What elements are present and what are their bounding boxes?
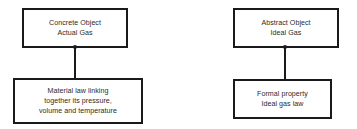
node-abstract-object-line-2: Ideal Gas — [271, 28, 302, 38]
node-formal-property-line-1: Formal property — [257, 89, 308, 99]
node-abstract-object-line-1: Abstract Object — [261, 18, 310, 28]
node-formal-property[interactable]: Formal property Ideal gas law — [233, 79, 332, 119]
node-material-law-line-1: Material law linking — [48, 86, 109, 96]
connector-cap-left — [73, 45, 77, 49]
node-formal-property-line-2: Ideal gas law — [261, 99, 303, 109]
node-material-law-line-3: volume and temperature — [39, 106, 117, 116]
node-abstract-object[interactable]: Abstract Object Ideal Gas — [233, 8, 339, 48]
node-material-law[interactable]: Material law linking together its pressu… — [13, 78, 143, 124]
node-concrete-object-line-1: Concrete Object — [49, 18, 101, 28]
node-concrete-object-line-2: Actual Gas — [57, 28, 92, 38]
node-material-law-line-2: together its pressure, — [44, 96, 112, 106]
connector-abstract-to-formal-property — [284, 46, 286, 81]
connector-concrete-to-material-law — [74, 46, 76, 80]
node-concrete-object[interactable]: Concrete Object Actual Gas — [22, 8, 128, 48]
connector-cap-right — [283, 45, 287, 49]
diagram-canvas: Concrete Object Actual Gas Material law … — [0, 0, 357, 129]
